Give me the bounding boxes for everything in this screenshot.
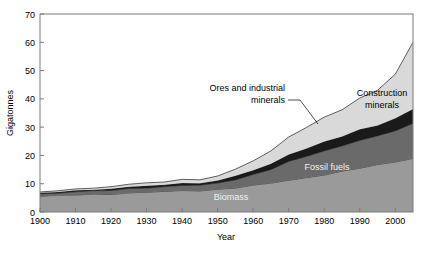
chart-svg: 70 60 50 40 30 20 10 0 1900 1910 1920 19… — [0, 0, 435, 254]
x-tick-label-1920: 1920 — [101, 216, 121, 226]
y-tick-label-50: 50 — [25, 66, 35, 76]
x-tick-label-1940: 1940 — [172, 216, 192, 226]
x-tick-label-2000: 2000 — [385, 216, 405, 226]
x-tick-label-1910: 1910 — [65, 216, 85, 226]
annotation-ores-line2: minerals — [251, 95, 286, 105]
y-tick-label-30: 30 — [25, 123, 35, 133]
x-tick-label-1900: 1900 — [30, 216, 50, 226]
y-axis-title: Gigatonnes — [5, 89, 15, 136]
y-tick-label-70: 70 — [25, 10, 35, 20]
y-tick-label-20: 20 — [25, 151, 35, 161]
annotation-construction-line2: minerals — [365, 100, 400, 110]
x-tick-label-1980: 1980 — [314, 216, 334, 226]
x-tick-label-1950: 1950 — [208, 216, 228, 226]
y-tick-label-40: 40 — [25, 94, 35, 104]
x-tick-label-1960: 1960 — [243, 216, 263, 226]
annotation-construction-line1: Construction — [357, 88, 408, 98]
x-tick-label-1990: 1990 — [350, 216, 370, 226]
annotation-ores-line1: Ores and industrial — [209, 83, 285, 93]
annotation-fossil-fuels: Fossil fuels — [304, 162, 350, 172]
stacked-area-chart: 70 60 50 40 30 20 10 0 1900 1910 1920 19… — [0, 0, 435, 254]
y-tick-label-10: 10 — [25, 179, 35, 189]
annotation-biomass: Biomass — [214, 192, 249, 202]
x-tick-label-1930: 1930 — [137, 216, 157, 226]
x-tick-label-1970: 1970 — [279, 216, 299, 226]
x-axis-title: Year — [217, 232, 235, 242]
y-tick-label-60: 60 — [25, 38, 35, 48]
